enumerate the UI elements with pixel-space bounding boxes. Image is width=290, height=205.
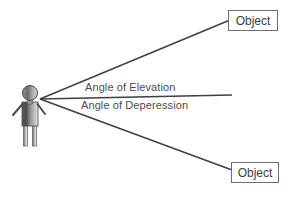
observer-left-leg <box>24 124 28 146</box>
angle-diagram: Angle of Elevation Angle of Deperession … <box>0 0 290 205</box>
angle-of-elevation-label: Angle of Elevation <box>85 81 175 93</box>
observer-head <box>23 86 38 101</box>
observer-body <box>22 102 38 126</box>
object-box-bottom: Object <box>231 162 279 183</box>
observer-right-arm <box>38 104 46 114</box>
angle-of-depression-label: Angle of Deperession <box>81 99 188 111</box>
observer-right-leg <box>33 124 37 146</box>
observer-left-arm <box>13 104 23 115</box>
object-box-top: Object <box>228 10 278 31</box>
